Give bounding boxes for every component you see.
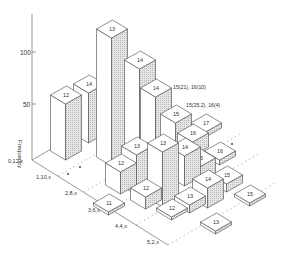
frequency-3d-bar-chart: 100 50 Frequency 0,12,x 1,10,x 2,8,x 3,6… [0,0,281,255]
bar-label: 16 [190,130,196,136]
bar-label: 15 [224,172,230,178]
y-axis: 100 50 Frequency [17,14,36,168]
bar-label: 14 [205,176,211,182]
y-tick-50: 50 [23,101,31,108]
bar-label: 13 [160,140,166,146]
bar-label: 13 [109,26,115,32]
y-tick-100: 100 [20,49,31,56]
bar-label: 12 [143,185,149,191]
bar-left-face [51,95,66,160]
row-label-0: 0,12,x [8,158,23,164]
bar-label: 15 [247,191,253,197]
bar-label: 11 [106,200,112,206]
bar-left-face [97,29,112,166]
row-label-1: 1,10,x [36,174,51,180]
bar-right-face [66,95,82,160]
row-label-4: 4,4,x [115,223,127,229]
bar-label: 14 [86,81,92,87]
row-label-2: 2,8,x [65,190,77,196]
bar-label: 13 [187,193,193,199]
bar-label: 12 [118,160,124,166]
bar-label: 13 [213,219,219,225]
bar-19: 15 [235,185,266,206]
bar-21: 13 [201,213,232,234]
annotation-15-21-16-10: 15(21), 16(10) [173,84,206,90]
bar-label: 17 [203,120,209,126]
bar-label: 14 [182,144,188,150]
annotations: 15(21), 16(10) 15(35.2), 16(4) [173,84,221,108]
bar-label: 14 [153,85,159,91]
bar-label: 13 [134,143,140,149]
bars-group: 1413141417151612161514131312151412131115… [51,20,266,234]
annotation-15-35-16-4: 15(35.2), 16(4) [186,102,221,108]
row-label-5: 5,2,x [147,239,159,245]
y-axis-label: Frequency [17,140,23,168]
bar-label: 14 [137,57,143,63]
bar-label: 12 [169,205,175,211]
bar-1: 13 [97,20,128,166]
bar-label: 16 [217,148,223,154]
bar-label: 12 [63,92,69,98]
bar-label: 15 [173,111,179,117]
bar-7: 12 [51,86,82,160]
